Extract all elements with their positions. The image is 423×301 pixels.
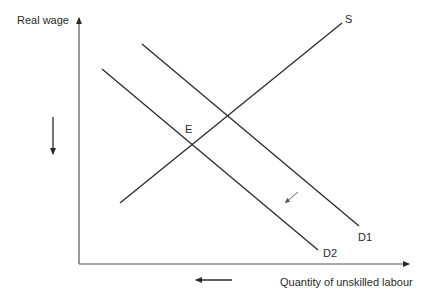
demand-curve-d2 (102, 69, 318, 250)
x-axis-label: Quantity of unskilled labour (280, 276, 413, 288)
supply-curve (120, 23, 342, 203)
demand-shift-arrow-icon (285, 192, 298, 203)
demand-curve-d1 (142, 44, 359, 226)
demand-curve-d2-label: D2 (323, 247, 337, 259)
equilibrium-label: E (185, 123, 192, 135)
demand-curve-d1-label: D1 (358, 231, 372, 243)
supply-curve-label: S (345, 13, 352, 25)
labour-market-diagram: Real wage Quantity of unskilled labour S… (0, 0, 423, 301)
y-axis-label: Real wage (17, 14, 69, 26)
